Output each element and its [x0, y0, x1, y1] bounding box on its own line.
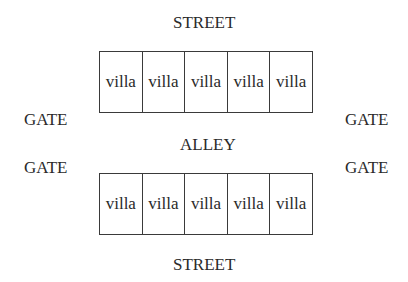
villa-cell: villa: [143, 174, 186, 234]
villa-cell: villa: [100, 52, 143, 112]
gate-bottom-right-label: GATE: [345, 159, 388, 176]
gate-top-right-label: GATE: [345, 111, 388, 128]
villa-cell: villa: [228, 174, 271, 234]
villa-cell: villa: [100, 174, 143, 234]
villa-row-top: villa villa villa villa villa: [99, 51, 313, 113]
villa-cell: villa: [228, 52, 271, 112]
alley-label: ALLEY: [180, 136, 236, 153]
villa-cell: villa: [185, 52, 228, 112]
street-top-label: STREET: [173, 14, 235, 31]
gate-bottom-left-label: GATE: [24, 159, 67, 176]
villa-cell: villa: [143, 52, 186, 112]
villa-cell: villa: [270, 174, 312, 234]
villa-row-bottom: villa villa villa villa villa: [99, 173, 313, 235]
street-bottom-label: STREET: [173, 256, 235, 273]
villa-cell: villa: [270, 52, 312, 112]
gate-top-left-label: GATE: [24, 111, 67, 128]
villa-cell: villa: [185, 174, 228, 234]
